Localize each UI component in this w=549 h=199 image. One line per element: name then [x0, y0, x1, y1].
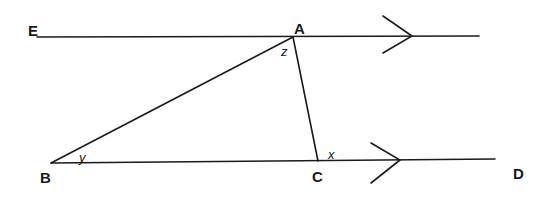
point-label-E: E: [28, 22, 38, 39]
geometry-diagram: E A B C D z y x: [0, 0, 549, 199]
point-label-D: D: [513, 165, 524, 182]
segment-AB: [51, 37, 293, 163]
segment-AC: [293, 37, 318, 161]
angle-label-z: z: [280, 44, 288, 59]
top-parallel-arrow-icon: [383, 16, 412, 53]
angle-label-x: x: [327, 147, 335, 162]
bottom-parallel-arrow-icon: [371, 143, 400, 183]
bottom-parallel-line: [51, 159, 495, 163]
point-label-B: B: [40, 169, 51, 186]
point-label-A: A: [294, 20, 305, 37]
point-label-C: C: [312, 168, 323, 185]
